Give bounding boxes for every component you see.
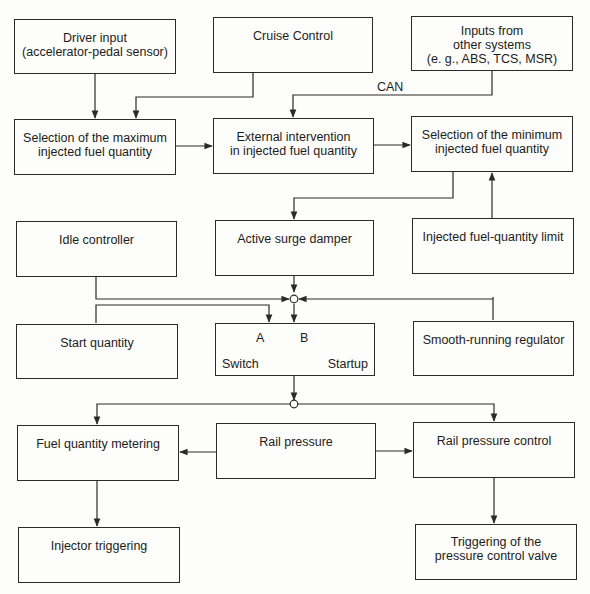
box-smooth-running: Smooth-running regulator [413, 321, 574, 376]
startup-label: Startup [328, 357, 368, 371]
box-rail-pressure: Rail pressure [216, 423, 376, 479]
select-max-label: Selection of the maximum injected fuel q… [15, 131, 175, 159]
external-intervention-label: External intervention in injected fuel q… [214, 130, 373, 158]
rail-pressure-label: Rail pressure [217, 435, 375, 449]
box-fuel-metering: Fuel quantity metering [17, 425, 179, 481]
box-cruise-control: Cruise Control [213, 17, 373, 73]
box-driver-input: Driver input (accelerator-pedal sensor) [14, 19, 176, 74]
idle-controller-label: Idle controller [17, 233, 176, 247]
connector-layer [0, 0, 590, 594]
arrow-smooth-to-junction [299, 297, 493, 299]
smooth-running-label: Smooth-running regulator [414, 333, 573, 347]
pcv-triggering-label: Triggering of the pressure control valve [416, 535, 576, 563]
distribution-junction [290, 400, 298, 408]
rail-pressure-control-label: Rail pressure control [414, 434, 574, 448]
arrow-select-min-to-surge [294, 171, 453, 219]
injector-triggering-label: Injector triggering [19, 539, 179, 553]
switch-label: Switch [222, 357, 259, 371]
fuel-metering-label: Fuel quantity metering [18, 437, 178, 451]
fuel-limit-label: Injected fuel-quantity limit [413, 230, 573, 244]
switch-b-label: B [300, 331, 308, 345]
box-switch: A B Switch Startup [215, 323, 375, 376]
box-select-max: Selection of the maximum injected fuel q… [14, 119, 176, 175]
surge-damper-label: Active surge damper [216, 232, 373, 246]
box-idle-controller: Idle controller [16, 221, 177, 277]
arrow-start-to-switch-a [96, 305, 269, 323]
arrow-junction2-to-metering [97, 404, 290, 424]
start-quantity-label: Start quantity [17, 336, 177, 350]
arrow-idle-to-junction [96, 277, 289, 299]
box-surge-damper: Active surge damper [215, 220, 374, 276]
box-rail-pressure-control: Rail pressure control [413, 422, 575, 478]
other-inputs-label: Inputs from other systems (e. g., ABS, T… [412, 24, 572, 66]
box-fuel-limit: Injected fuel-quantity limit [412, 218, 574, 274]
switch-a-label: A [256, 331, 264, 345]
box-select-min: Selection of the minimum injected fuel q… [411, 116, 573, 172]
box-start-quantity: Start quantity [16, 324, 178, 379]
driver-input-label: Driver input (accelerator-pedal sensor) [15, 31, 175, 59]
select-min-label: Selection of the minimum injected fuel q… [412, 128, 572, 156]
cruise-control-label: Cruise Control [214, 29, 372, 43]
arrow-cruise-to-select-max [136, 72, 253, 118]
arrow-junction2-to-rail-control [298, 404, 494, 421]
box-other-inputs: Inputs from other systems (e. g., ABS, T… [411, 16, 573, 71]
can-label: CAN [377, 80, 403, 94]
box-pcv-triggering: Triggering of the pressure control valve [415, 524, 577, 580]
box-injector-triggering: Injector triggering [18, 527, 180, 583]
box-external-intervention: External intervention in injected fuel q… [213, 118, 374, 174]
summing-junction [290, 295, 298, 303]
